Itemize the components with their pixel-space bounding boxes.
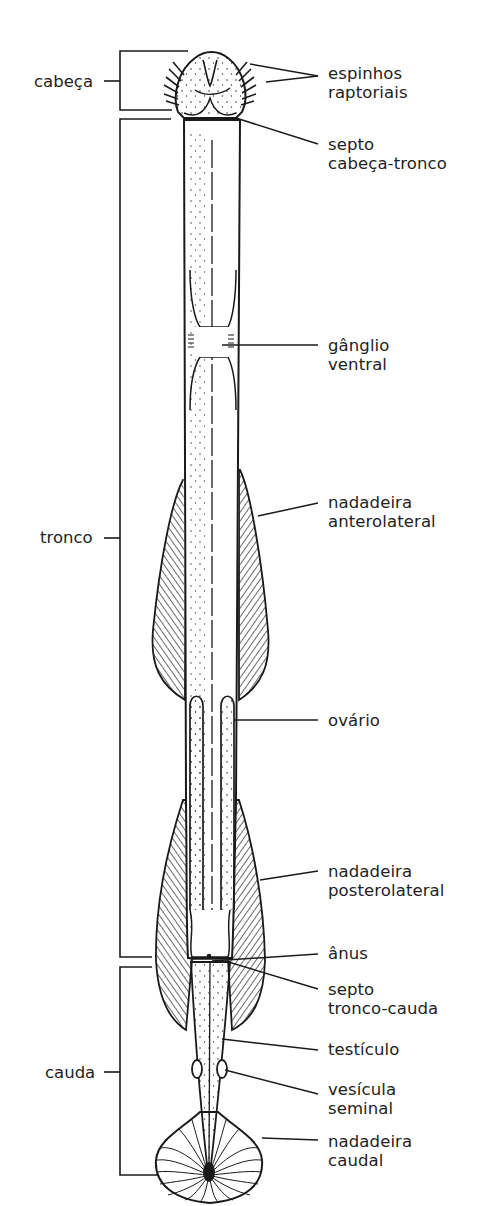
region-label-tail: cauda (45, 1063, 95, 1082)
label-line: seminal (328, 1099, 396, 1118)
label-ovary: ovário (328, 711, 380, 730)
anus-mark (207, 954, 212, 959)
label-line: nadadeira (328, 493, 436, 512)
label-line: posterolateral (328, 881, 445, 900)
label-line: espinhos (328, 64, 408, 83)
seminal-vesicle-left (192, 1060, 202, 1078)
label-raptorial-spines: espinhos raptoriais (328, 64, 408, 102)
label-line: septo (328, 135, 447, 154)
label-line: ovário (328, 711, 380, 730)
label-line: raptoriais (328, 83, 408, 102)
label-line: testículo (328, 1040, 399, 1059)
label-line: gânglio (328, 336, 389, 355)
chaetognath-diagram: cabeça tronco cauda espinhos raptoriais … (0, 0, 479, 1206)
label-line: septo (328, 980, 438, 999)
head (164, 52, 256, 118)
label-line: caudal (328, 1151, 412, 1170)
label-line: anterolateral (328, 512, 436, 531)
label-anus: ânus (328, 944, 368, 963)
label-line: nadadeira (328, 862, 445, 881)
ovary-right (221, 696, 234, 910)
label-line: ventral (328, 355, 389, 374)
label-seminal-vesicle: vesícula seminal (328, 1080, 396, 1118)
label-line: cabeça-tronco (328, 154, 447, 173)
label-ventral-ganglion: gânglio ventral (328, 336, 389, 374)
label-line: tronco-cauda (328, 999, 438, 1018)
label-line: vesícula (328, 1080, 396, 1099)
anterior-fin-left (152, 480, 185, 700)
label-caudal-fin: nadadeira caudal (328, 1132, 412, 1170)
anterior-fin-right (239, 470, 269, 700)
label-line: nadadeira (328, 1132, 412, 1151)
label-testis: testículo (328, 1040, 399, 1059)
label-head-trunk-septum: septo cabeça-tronco (328, 135, 447, 173)
label-trunk-tail-septum: septo tronco-cauda (328, 980, 438, 1018)
region-label-trunk: tronco (40, 528, 93, 547)
label-line: ânus (328, 944, 368, 963)
seminal-vesicle-right (217, 1060, 227, 1078)
label-posterolateral-fin: nadadeira posterolateral (328, 862, 445, 900)
region-label-head: cabeça (34, 72, 93, 91)
trunk-bracket (104, 119, 171, 957)
ovary-left (190, 696, 203, 910)
label-anterolateral-fin: nadadeira anterolateral (328, 493, 436, 531)
organism-drawing (0, 0, 479, 1206)
